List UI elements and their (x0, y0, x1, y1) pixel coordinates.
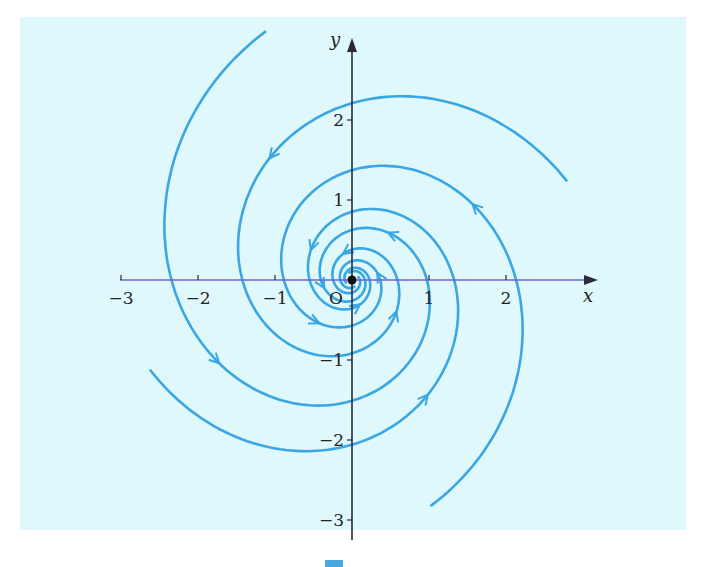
equilibrium-point (348, 276, 357, 285)
direction-arrows (209, 148, 483, 406)
phase-portrait: −3−2−112 21−1−2−3 x y O (0, 0, 706, 567)
spiral-trajectories (151, 32, 567, 506)
x-tick-label: 1 (424, 288, 435, 308)
y-tick-label: −1 (319, 350, 344, 370)
x-tick-label: −2 (185, 288, 210, 308)
origin-label: O (329, 288, 343, 308)
x-tick-label: −3 (108, 288, 133, 308)
y-axis-arrow-icon (347, 38, 357, 52)
x-axis-arrow-icon (584, 275, 598, 285)
y-tick-label: 1 (333, 190, 344, 210)
y-tick-label: −2 (319, 430, 344, 450)
y-tick-label: 2 (333, 110, 344, 130)
y-tick-label: −3 (319, 510, 344, 530)
y-axis-label: y (329, 29, 341, 50)
x-tick-label: −1 (262, 288, 287, 308)
x-tick-label: 2 (501, 288, 512, 308)
x-axis-label: x (583, 285, 593, 306)
spiral-trajectory (151, 209, 459, 451)
page-marker (325, 560, 343, 567)
